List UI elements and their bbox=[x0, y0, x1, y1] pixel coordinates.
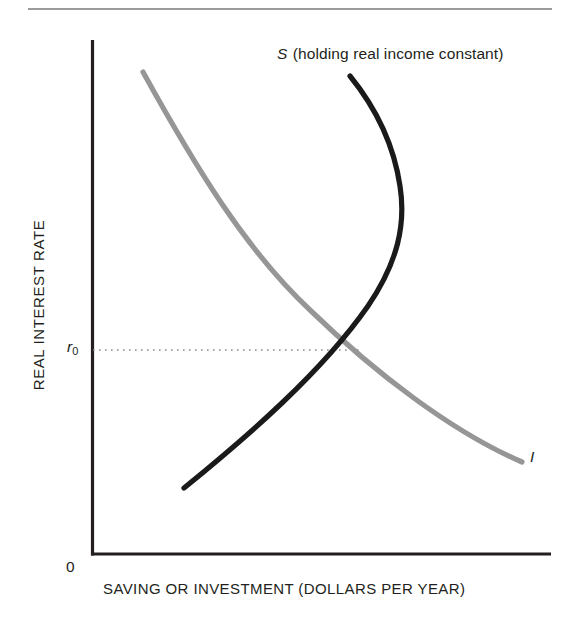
y-axis-title: REAL INTEREST RATE bbox=[30, 220, 47, 391]
saving-curve-symbol: S bbox=[277, 45, 288, 62]
figure-container: S (holding real income constant) I REAL … bbox=[0, 0, 578, 621]
saving-curve-note: (holding real income constant) bbox=[288, 45, 503, 62]
saving-curve-label: S (holding real income constant) bbox=[277, 45, 504, 63]
r0-subscript: 0 bbox=[72, 345, 78, 357]
investment-curve bbox=[143, 72, 522, 462]
investment-curve-label: I bbox=[530, 448, 534, 466]
y-axis-tick-label-r0: r0 bbox=[67, 338, 78, 357]
saving-curve bbox=[184, 76, 402, 488]
origin-label: 0 bbox=[66, 558, 75, 576]
x-axis-title: SAVING OR INVESTMENT (DOLLARS PER YEAR) bbox=[103, 580, 465, 597]
plot-area bbox=[0, 0, 578, 621]
